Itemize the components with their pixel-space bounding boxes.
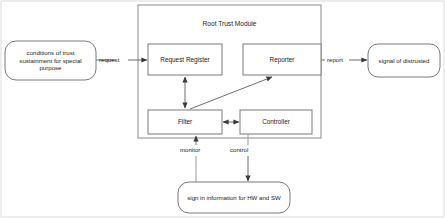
diagram-vector-layer [0, 0, 445, 218]
signal-of-distrusted-box[interactable] [368, 44, 440, 77]
diagram-canvas: Root Trust Module Request Register Repor… [0, 0, 445, 218]
filter-box[interactable] [148, 110, 222, 134]
sign-in-information-box[interactable] [178, 182, 290, 213]
edge-filter-reporter [190, 77, 272, 109]
conditions-of-trust-box[interactable] [5, 41, 96, 80]
controller-box[interactable] [240, 110, 312, 134]
reporter-box[interactable] [243, 44, 321, 75]
request-register-box[interactable] [148, 44, 222, 75]
